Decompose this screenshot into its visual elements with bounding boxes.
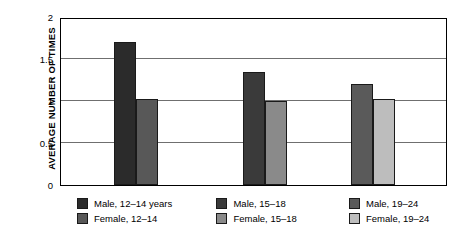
legend-item: Female, 12–14: [77, 213, 216, 224]
legend-swatch: [77, 213, 88, 224]
legend-label: Male, 12–14 years: [94, 199, 172, 209]
legend-swatch: [216, 213, 227, 224]
bar: [265, 101, 287, 185]
legend-label: Female, 12–14: [94, 214, 157, 224]
bar: [114, 42, 136, 185]
legend-label: Female, 15–18: [233, 214, 296, 224]
legend-label: Male, 15–18: [233, 199, 285, 209]
y-tick-label: 1.5: [7, 55, 53, 65]
bar: [136, 99, 158, 185]
legend-item: Male, 12–14 years: [77, 198, 216, 209]
legend-item: Male, 15–18: [216, 198, 349, 209]
plot-area: [60, 18, 447, 186]
legend-label: Male, 19–24: [366, 199, 418, 209]
legend-row: Female, 12–14Female, 15–18Female, 19–24: [77, 211, 457, 226]
bar: [373, 99, 395, 185]
legend-swatch: [216, 198, 227, 209]
bar: [351, 84, 373, 185]
y-tick-label: 0: [7, 181, 53, 191]
chart-legend: Male, 12–14 yearsMale, 15–18Male, 19–24 …: [77, 196, 457, 226]
bar-chart: AVERAGE NUMBER OF TIMES 21.510.50 Male, …: [0, 0, 464, 246]
legend-item: Female, 15–18: [216, 213, 349, 224]
y-axis-tick-labels: 21.510.50: [7, 18, 53, 186]
legend-item: Male, 19–24: [349, 198, 457, 209]
y-tick-label: 0.5: [7, 139, 53, 149]
y-tick-label: 2: [7, 13, 53, 23]
y-tick-label: 1: [7, 97, 53, 107]
bar: [243, 72, 265, 185]
legend-item: Female, 19–24: [349, 213, 457, 224]
legend-swatch: [349, 213, 360, 224]
legend-swatch: [349, 198, 360, 209]
legend-swatch: [77, 198, 88, 209]
legend-label: Female, 19–24: [366, 214, 429, 224]
legend-row: Male, 12–14 yearsMale, 15–18Male, 19–24: [77, 196, 457, 211]
